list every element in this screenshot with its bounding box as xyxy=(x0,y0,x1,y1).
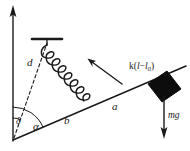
down-arrow-icon xyxy=(161,96,168,139)
label-spring-force: k(l−l0) xyxy=(129,61,154,72)
spring-force-close: ) xyxy=(151,61,154,72)
label-alpha: α xyxy=(33,120,39,132)
mechanics-diagram: d δ α b a k(l−l0) mg xyxy=(0,0,190,151)
label-d: d xyxy=(27,56,33,68)
ceiling-support-icon xyxy=(32,39,62,45)
label-b: b xyxy=(64,114,70,126)
label-delta: δ xyxy=(16,116,21,126)
coil-spring-icon xyxy=(41,45,89,101)
force-arrow-icon xyxy=(88,59,123,84)
diagram-canvas: d δ α b a k(l−l0) mg xyxy=(0,0,190,151)
spring-force-open: k( xyxy=(129,61,137,72)
label-a: a xyxy=(112,100,118,112)
label-mg: mg xyxy=(168,110,180,120)
